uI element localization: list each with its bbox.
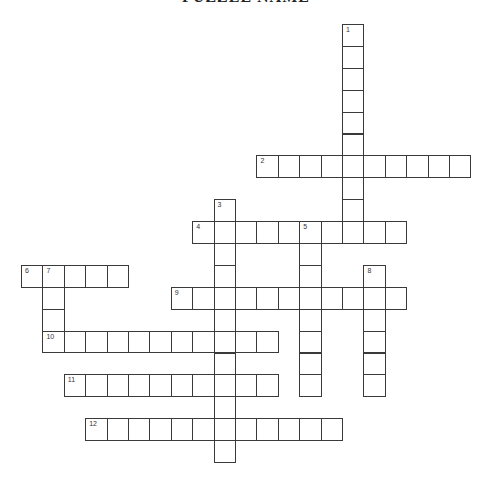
grid-cell[interactable] [321,418,343,441]
grid-cell[interactable]: 6 [21,265,43,288]
grid-cell[interactable] [299,309,321,332]
grid-cell[interactable] [214,309,236,332]
grid-cell[interactable]: 3 [214,199,236,222]
grid-cell[interactable]: 5 [299,221,321,244]
grid-cell[interactable]: 7 [42,265,64,288]
grid-cell[interactable] [171,374,193,397]
grid-cell[interactable] [214,331,236,354]
grid-cell[interactable] [299,243,321,266]
grid-cell[interactable]: 10 [42,331,64,354]
grid-cell[interactable] [342,287,364,310]
grid-cell[interactable] [363,374,385,397]
grid-cell[interactable] [235,331,257,354]
grid-cell[interactable] [85,374,107,397]
clue-number: 2 [260,157,264,165]
grid-cell[interactable] [342,221,364,244]
clue-number: 8 [367,267,371,275]
grid-cell[interactable] [342,177,364,200]
grid-cell[interactable]: 1 [342,24,364,47]
grid-cell[interactable] [171,331,193,354]
grid-cell[interactable] [214,374,236,397]
grid-cell[interactable] [214,418,236,441]
grid-cell[interactable]: 2 [256,155,278,178]
grid-cell[interactable] [278,221,300,244]
grid-cell[interactable] [128,331,150,354]
grid-cell[interactable] [256,418,278,441]
grid-cell[interactable] [171,418,193,441]
grid-cell[interactable] [385,155,407,178]
grid-cell[interactable] [64,265,86,288]
grid-cell[interactable] [214,440,236,463]
grid-cell[interactable] [299,155,321,178]
grid-cell[interactable] [214,287,236,310]
grid-cell[interactable] [299,418,321,441]
grid-cell[interactable] [363,287,385,310]
grid-cell[interactable] [149,374,171,397]
grid-cell[interactable]: 12 [85,418,107,441]
grid-cell[interactable] [321,221,343,244]
grid-cell[interactable] [107,265,129,288]
grid-cell[interactable] [363,353,385,376]
grid-cell[interactable] [299,287,321,310]
grid-cell[interactable] [299,331,321,354]
grid-cell[interactable] [214,265,236,288]
grid-cell[interactable] [214,353,236,376]
grid-cell[interactable] [363,155,385,178]
grid-cell[interactable] [278,287,300,310]
grid-cell[interactable] [363,309,385,332]
grid-cell[interactable] [214,243,236,266]
grid-cell[interactable] [42,309,64,332]
grid-cell[interactable] [363,221,385,244]
grid-cell[interactable] [256,331,278,354]
grid-cell[interactable] [299,353,321,376]
grid-cell[interactable] [214,396,236,419]
grid-cell[interactable] [107,331,129,354]
grid-cell[interactable] [428,155,450,178]
grid-cell[interactable] [342,90,364,113]
grid-cell[interactable] [235,418,257,441]
grid-cell[interactable] [342,68,364,91]
grid-cell[interactable] [192,287,214,310]
grid-cell[interactable] [363,331,385,354]
grid-cell[interactable] [256,221,278,244]
grid-cell[interactable] [256,374,278,397]
grid-cell[interactable] [149,418,171,441]
grid-cell[interactable] [107,418,129,441]
grid-cell[interactable]: 9 [171,287,193,310]
grid-cell[interactable]: 11 [64,374,86,397]
grid-cell[interactable] [299,374,321,397]
grid-cell[interactable] [256,287,278,310]
grid-cell[interactable] [321,155,343,178]
grid-cell[interactable] [385,221,407,244]
grid-cell[interactable] [85,265,107,288]
grid-cell[interactable] [192,374,214,397]
grid-cell[interactable] [342,112,364,135]
grid-cell[interactable] [278,155,300,178]
grid-cell[interactable]: 8 [363,265,385,288]
crossword-grid: 123456710891112 [0,0,492,483]
grid-cell[interactable] [342,134,364,157]
grid-cell[interactable] [342,199,364,222]
grid-cell[interactable] [214,221,236,244]
grid-cell[interactable] [342,46,364,69]
grid-cell[interactable] [85,331,107,354]
grid-cell[interactable] [192,331,214,354]
grid-cell[interactable] [235,374,257,397]
grid-cell[interactable] [278,418,300,441]
grid-cell[interactable] [235,221,257,244]
grid-cell[interactable] [299,265,321,288]
grid-cell[interactable] [406,155,428,178]
grid-cell[interactable] [128,374,150,397]
grid-cell[interactable] [385,287,407,310]
grid-cell[interactable] [321,287,343,310]
grid-cell[interactable] [107,374,129,397]
grid-cell[interactable]: 4 [192,221,214,244]
grid-cell[interactable] [128,418,150,441]
grid-cell[interactable] [42,287,64,310]
grid-cell[interactable] [342,155,364,178]
grid-cell[interactable] [149,331,171,354]
grid-cell[interactable] [235,287,257,310]
grid-cell[interactable] [64,331,86,354]
grid-cell[interactable] [192,418,214,441]
grid-cell[interactable] [449,155,471,178]
